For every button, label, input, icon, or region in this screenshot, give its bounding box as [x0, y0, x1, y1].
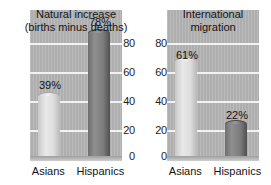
x-label-asians: Asians: [169, 165, 202, 177]
chart-panel-natural-increase: 80 60 40 20 0 39% 78% Natural increase: [0, 0, 135, 185]
bar-hispanics[interactable]: [88, 29, 110, 156]
panel-title-line-2: migration: [161, 21, 265, 34]
bar-asians[interactable]: [175, 57, 197, 156]
bar-body: [38, 96, 60, 156]
axis-baseline: [167, 156, 259, 161]
x-axis-labels: Asians Hispanics: [26, 165, 130, 177]
value-label-hispanics: 22%: [217, 110, 257, 121]
x-label-hispanics: Hispanics: [76, 165, 124, 177]
x-label-hispanics: Hispanics: [213, 165, 261, 177]
y-axis-tick-20: 20: [141, 125, 167, 135]
y-axis-tick-60: 60: [141, 67, 167, 77]
bar-body: [175, 61, 197, 156]
y-axis-tick-40: 40: [141, 96, 167, 106]
chart-panel-international-migration: 80 60 40 20 0 61% 22% International mi: [135, 0, 271, 185]
two-panel-bar-chart-figure: 80 60 40 20 0 39% 78% Natural increase: [0, 0, 271, 185]
x-label-asians: Asians: [32, 165, 65, 177]
bar-hispanics[interactable]: [225, 120, 247, 156]
y-axis-tick-80: 80: [141, 38, 167, 48]
bar-body: [225, 124, 247, 156]
panel-title-line-1: Natural increase: [24, 8, 128, 21]
x-axis-labels: Asians Hispanics: [163, 165, 267, 177]
gridline-80: [167, 43, 259, 45]
panel-title-line-1: International: [161, 8, 265, 21]
bar-asians[interactable]: [38, 92, 60, 156]
value-label-asians: 61%: [167, 50, 207, 61]
axis-baseline: [30, 156, 122, 161]
y-axis-tick-0: 0: [141, 151, 167, 161]
bar-body: [88, 33, 110, 156]
panel-title-line-2: (births minus deaths): [24, 21, 128, 34]
value-label-asians: 39%: [30, 80, 70, 91]
